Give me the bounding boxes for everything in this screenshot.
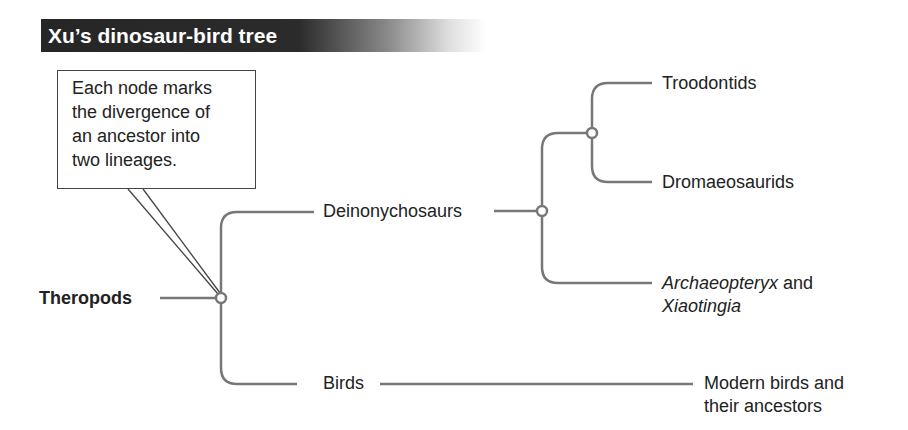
taxon-xiaotingia: Xiaotingia [662, 296, 741, 316]
conjunction-and: and [778, 273, 813, 293]
label-dromaeosaurids: Dromaeosaurids [662, 171, 794, 194]
taxon-archaeopteryx: Archaeopteryx [662, 273, 778, 293]
callout-line: an ancestor into [72, 124, 252, 148]
label-theropods: Theropods [39, 287, 132, 310]
callout-line: two lineages. [72, 148, 252, 172]
callout-line: Each node marks [72, 76, 252, 100]
callout-line: the divergence of [72, 100, 252, 124]
node-deinonychosaurs [537, 206, 547, 216]
label-birds: Birds [323, 372, 364, 395]
label-troodontids: Troodontids [662, 72, 756, 95]
label-deinonychosaurs: Deinonychosaurs [323, 200, 462, 223]
node-troodontid-dromaeosaurid [587, 128, 597, 138]
node-theropods [216, 293, 226, 303]
label-modern-birds: Modern birds and their ancestors [704, 372, 844, 418]
callout-text: Each node marks the divergence of an anc… [72, 76, 252, 172]
modern-birds-line1: Modern birds and [704, 373, 844, 393]
label-archaeopteryx-xiaotingia: Archaeopteryx and Xiaotingia [662, 272, 813, 318]
modern-birds-line2: their ancestors [704, 396, 822, 416]
